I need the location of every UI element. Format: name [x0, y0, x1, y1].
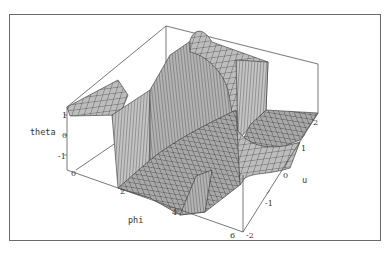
x-tick: 6 [230, 232, 235, 240]
z-tick: -1 [58, 153, 66, 161]
x-axis-label: phi [128, 216, 143, 225]
y-tick: 1 [301, 145, 306, 153]
z-tick: 0 [62, 132, 67, 140]
y-tick: 0 [283, 172, 288, 180]
z-tick: 1 [62, 112, 67, 120]
x-tick: 4 [172, 209, 177, 217]
x-tick-origin: 0 [71, 170, 76, 178]
x-tick: 2 [120, 188, 125, 196]
surface-plot [0, 0, 392, 257]
y-tick: -2 [246, 232, 254, 240]
z-axis-label: theta [30, 128, 56, 137]
y-tick: -1 [265, 200, 273, 208]
y-axis-label: u [302, 176, 307, 185]
y-tick: 2 [313, 119, 318, 127]
